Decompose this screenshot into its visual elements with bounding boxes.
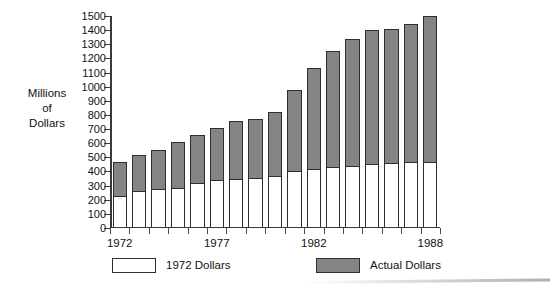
bar-segment-1972-dollars [404,162,418,228]
bar-segment-1972-dollars [171,188,185,228]
x-axis-tick-mark [285,228,286,234]
bar [307,68,321,228]
x-axis-tick-mark [207,228,208,234]
bar [404,24,418,228]
bar [423,16,437,228]
legend-label: Actual Dollars [370,259,441,272]
bar-segment-1972-dollars [268,176,282,228]
y-axis-tick-label: 1100 [68,67,106,78]
x-axis-tick-mark [110,228,111,234]
x-axis-tick-mark [265,228,266,234]
bar [210,128,224,228]
bar [171,142,185,228]
y-axis-tick-mark [104,129,110,130]
y-axis-tick-label: 200 [68,194,106,205]
y-axis-tick-mark [104,87,110,88]
y-axis-tick-label: 100 [68,208,106,219]
bar-segment-1972-dollars [190,183,204,228]
x-axis-tick-mark [440,228,441,234]
bar-segment-1972-dollars [326,167,340,228]
bar [229,121,243,228]
bar-series-group [110,16,440,228]
x-axis-tick-mark [343,228,344,234]
x-axis-tick-mark [421,228,422,234]
y-axis-tick-mark [104,16,110,17]
y-axis-tick-label: 800 [68,109,106,120]
y-axis-tick-label: 300 [68,180,106,191]
y-axis-tick-mark [104,73,110,74]
bar-segment-1972-dollars [384,163,398,228]
bar [132,155,146,228]
bar-segment-1972-dollars [423,162,437,228]
bar-segment-1972-dollars [248,178,262,228]
bar [287,90,301,229]
x-axis-tick-mark [168,228,169,234]
y-axis-tick-label: 900 [68,95,106,106]
x-axis-tick-mark [362,228,363,234]
y-axis-tick-label: 600 [68,138,106,149]
x-axis-tick-mark [188,228,189,234]
bar [326,51,340,228]
y-axis-tick-label: 1300 [68,39,106,50]
bar [190,135,204,228]
y-axis-tick-label: 0 [68,223,106,234]
bar-segment-1972-dollars [287,171,301,228]
plot-area: 1972197719821988 [110,16,440,228]
x-axis-tick-mark [226,228,227,234]
y-axis-tick-label: 500 [68,152,106,163]
y-axis-tick-mark [104,143,110,144]
bar-segment-1972-dollars [229,179,243,228]
y-axis-tick-label: 700 [68,124,106,135]
bar-segment-1972-dollars [307,169,321,228]
legend-swatch [316,258,360,273]
y-axis-tick-mark [104,44,110,45]
y-axis-tick-mark [104,30,110,31]
y-axis-tick-mark [104,228,110,229]
y-axis-tick-label: 1500 [68,11,106,22]
y-axis-tick-labels: 0100200300400500600700800900100011001200… [68,10,106,234]
y-axis-tick-label: 1200 [68,53,106,64]
chart-figure: Millions of Dollars 01002003004005006007… [0,0,554,290]
x-axis-tick-label: 1982 [301,237,327,250]
bar-segment-1972-dollars [365,164,379,228]
bar [268,112,282,228]
x-axis-tick-mark [129,228,130,234]
bar-segment-1972-dollars [132,191,146,228]
y-axis-tick-mark [104,171,110,172]
legend-entry: Actual Dollars [316,256,441,274]
x-axis-tick-mark [304,228,305,234]
bar [365,30,379,228]
bar-segment-1972-dollars [151,189,165,228]
scan-artifact-line [305,278,550,284]
bar [248,119,262,228]
x-axis-tick-label: 1977 [204,237,230,250]
x-axis-tick-mark [324,228,325,234]
x-axis-tick-mark [246,228,247,234]
y-axis-tick-mark [104,101,110,102]
bar-segment-1972-dollars [113,196,127,229]
bar [384,29,398,228]
bar-segment-1972-dollars [345,166,359,228]
legend-entry: 1972 Dollars [112,256,231,274]
x-axis-tick-labels: 1972197719821988 [110,237,450,253]
y-axis-tick-mark [104,200,110,201]
legend-label: 1972 Dollars [166,259,231,272]
bar [345,39,359,228]
legend-swatch [112,258,156,273]
x-axis-tick-mark [149,228,150,234]
y-axis-tick-mark [104,214,110,215]
y-axis-tick-label: 1000 [68,81,106,92]
y-axis-tick-mark [104,157,110,158]
bar [151,150,165,228]
y-axis-tick-label: 1400 [68,25,106,36]
x-axis-tick-mark [401,228,402,234]
y-axis-tick-label: 400 [68,166,106,177]
y-axis-tick-mark [104,58,110,59]
x-axis-tick-mark [382,228,383,234]
x-axis-tick-label: 1988 [417,237,443,250]
x-axis-tick-label: 1972 [107,237,133,250]
y-axis-tick-mark [104,186,110,187]
y-axis-tick-mark [104,115,110,116]
bar [113,162,127,228]
bar-segment-1972-dollars [210,180,224,228]
